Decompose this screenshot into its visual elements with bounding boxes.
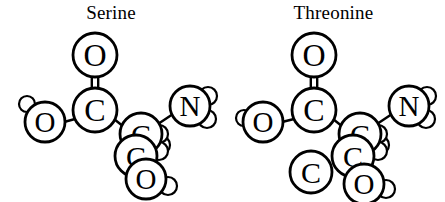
atom-label-side-hydroxyl-oxygen: O bbox=[354, 168, 375, 200]
atom-label-carbonyl-oxygen: O bbox=[83, 37, 106, 73]
atom-amine-nitrogen: N bbox=[389, 86, 429, 126]
bond-alpha-amine-bond bbox=[158, 114, 173, 124]
atom-side-hydroxyl-oxygen: O bbox=[126, 159, 166, 199]
atom-label-hydroxyl-oxygen: O bbox=[35, 106, 56, 138]
atom-label-amine-nitrogen: N bbox=[180, 90, 201, 122]
atom-side-hydroxyl-oxygen: O bbox=[344, 164, 384, 202]
atom-carboxyl-carbon: C bbox=[292, 88, 336, 132]
atom-methyl-carbon: C bbox=[290, 151, 332, 193]
amino-acid-structure-figure: Serine OCOCNCO Threonine OCOCNCCO bbox=[0, 0, 445, 202]
molecule-diagram-serine: OCOCNCO bbox=[0, 0, 222, 202]
atom-label-carboxyl-carbon: C bbox=[303, 92, 324, 128]
atom-label-carbonyl-oxygen: O bbox=[302, 37, 325, 73]
atom-hydroxyl-oxygen: O bbox=[243, 102, 283, 142]
atom-label-methyl-carbon: C bbox=[301, 156, 321, 189]
bond-alpha-amine-bond bbox=[377, 114, 392, 124]
atom-carbonyl-oxygen: O bbox=[292, 33, 336, 77]
molecule-panel-serine: Serine OCOCNCO bbox=[0, 0, 222, 202]
atom-amine-nitrogen: N bbox=[170, 86, 210, 126]
bond-carbonyl-double-bond bbox=[92, 77, 98, 88]
atom-label-amine-nitrogen: N bbox=[399, 90, 420, 122]
atom-carbonyl-oxygen: O bbox=[73, 33, 117, 77]
atom-hydroxyl-oxygen: O bbox=[25, 102, 65, 142]
atom-label-side-hydroxyl-oxygen: O bbox=[136, 163, 157, 195]
atom-carboxyl-carbon: C bbox=[73, 88, 117, 132]
molecule-diagram-threonine: OCOCNCCO bbox=[222, 0, 445, 202]
atom-label-hydroxyl-oxygen: O bbox=[253, 106, 274, 138]
bond-carbonyl-double-bond bbox=[311, 77, 317, 88]
molecule-panel-threonine: Threonine OCOCNCCO bbox=[222, 0, 445, 202]
atom-label-carboxyl-carbon: C bbox=[84, 92, 105, 128]
